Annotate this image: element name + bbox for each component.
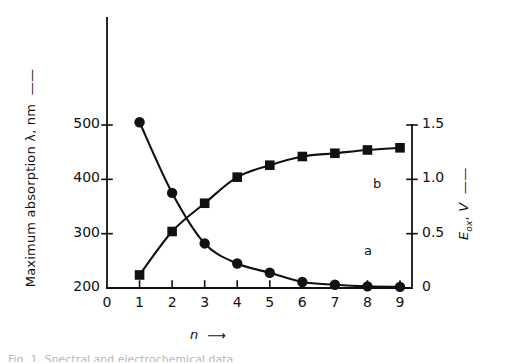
y-axis-right-title-sub: ox <box>464 220 474 231</box>
y-tick-label-right-3: 1.5 <box>422 115 444 131</box>
y-axis-left-arrow: —— <box>24 69 39 100</box>
data-point-a-1 <box>134 117 144 127</box>
y-axis-left-title-text: Maximum absorption λ, nm <box>23 104 38 287</box>
series-annotation-a: a <box>364 243 372 258</box>
x-tick-label-7: 7 <box>323 294 347 310</box>
x-tick-label-1: 1 <box>128 294 152 310</box>
data-point-b-1 <box>135 270 145 280</box>
x-tick-label-9: 9 <box>388 294 412 310</box>
data-point-a-5 <box>265 268 275 278</box>
figure-panel: Maximum absorption λ, nm —— Eox, V —— n … <box>0 0 516 364</box>
data-point-a-8 <box>362 281 372 291</box>
data-point-b-6 <box>298 152 308 162</box>
data-point-b-7 <box>330 148 340 158</box>
data-point-a-7 <box>330 280 340 290</box>
y-axis-right-title-unit: V <box>456 203 471 212</box>
y-tick-label-left-3: 500 <box>62 115 100 131</box>
y-tick-label-left-2: 400 <box>62 169 100 185</box>
y-tick-label-left-0: 200 <box>62 278 100 294</box>
x-axis-title-text: n <box>190 327 198 342</box>
data-point-a-4 <box>232 258 242 268</box>
y-axis-right-title: Eox, V —— <box>456 134 474 274</box>
data-point-b-9 <box>395 143 405 153</box>
y-tick-label-right-2: 1.0 <box>422 169 444 185</box>
series-annotation-b: b <box>373 176 381 191</box>
data-point-b-5 <box>265 160 275 170</box>
series-group <box>134 117 405 292</box>
data-point-a-2 <box>167 188 177 198</box>
x-tick-label-4: 4 <box>225 294 249 310</box>
x-tick-label-0: 0 <box>95 294 119 310</box>
series-curve-a <box>140 122 400 287</box>
x-tick-label-8: 8 <box>355 294 379 310</box>
data-point-b-8 <box>363 145 373 155</box>
data-point-b-2 <box>167 227 177 237</box>
x-tick-label-2: 2 <box>160 294 184 310</box>
y-tick-label-right-1: 0.5 <box>422 224 444 240</box>
data-point-a-3 <box>199 238 209 248</box>
y-axis-right-title-base: E <box>456 232 471 240</box>
x-axis-title: n ⟶ <box>190 327 226 343</box>
data-point-b-4 <box>232 172 242 182</box>
data-point-a-6 <box>297 277 307 287</box>
x-tick-label-3: 3 <box>193 294 217 310</box>
x-axis-arrow: ⟶ <box>203 328 226 343</box>
y-axis-right-arrow: —— <box>457 168 472 199</box>
x-tick-label-6: 6 <box>290 294 314 310</box>
y-axis-right-title-unit-sep: , <box>456 212 471 221</box>
y-tick-label-left-1: 300 <box>62 224 100 240</box>
data-point-a-9 <box>395 282 405 292</box>
x-tick-label-5: 5 <box>258 294 282 310</box>
caption-remnant: Fig. 1. Spectral and electrochemical dat… <box>8 353 308 362</box>
y-axis-left-title: Maximum absorption λ, nm —— <box>23 63 39 293</box>
data-point-b-3 <box>200 198 210 208</box>
y-tick-label-right-0: 0 <box>422 278 431 294</box>
